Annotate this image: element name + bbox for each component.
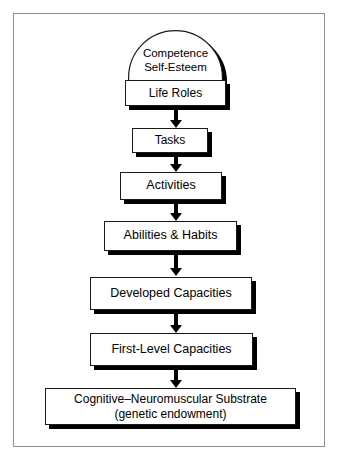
node-abilities-habits-label: Abilities & Habits [120, 228, 222, 243]
node-developed-capacities[interactable]: Developed Capacities [90, 277, 252, 310]
node-activities-label: Activities [142, 178, 199, 193]
node-tasks[interactable]: Tasks [132, 128, 208, 153]
node-first-level-capacities-label: First-Level Capacities [107, 342, 235, 357]
node-life-roles-label: Life Roles [145, 86, 206, 101]
arrow-stem [174, 367, 178, 381]
arrow-stem [174, 252, 178, 269]
arrow-activities-to-abilities [169, 201, 183, 221]
arrow-tasks-to-activities [169, 154, 183, 172]
arrow-stem [174, 107, 178, 121]
arrow-stem [174, 311, 178, 326]
arrow-head [170, 164, 182, 172]
node-abilities-habits[interactable]: Abilities & Habits [104, 221, 237, 251]
node-life-roles[interactable]: Life Roles [125, 80, 226, 106]
diagram-canvas: Competence Self-Esteem Life Roles Tasks … [0, 0, 339, 459]
arrow-first-level-to-substrate [169, 367, 183, 388]
node-cognitive-neuromuscular-substrate-label: Cognitive–Neuromuscular Substrate (genet… [70, 392, 271, 421]
arrow-head [170, 213, 182, 221]
arrow-abilities-to-developed [169, 252, 183, 276]
arrow-head [170, 325, 182, 333]
arrow-life-roles-to-tasks [169, 107, 183, 128]
node-developed-capacities-label: Developed Capacities [106, 286, 236, 301]
arrow-head [170, 120, 182, 128]
arrow-developed-to-first-level [169, 311, 183, 333]
node-cognitive-neuromuscular-substrate[interactable]: Cognitive–Neuromuscular Substrate (genet… [45, 388, 296, 425]
node-activities[interactable]: Activities [120, 172, 222, 200]
node-tasks-label: Tasks [151, 133, 190, 148]
competence-self-esteem-dome: Competence Self-Esteem [128, 30, 223, 80]
arrow-head [170, 268, 182, 276]
dome-label: Competence Self-Esteem [128, 46, 223, 75]
node-first-level-capacities[interactable]: First-Level Capacities [90, 333, 253, 366]
arrow-head [170, 380, 182, 388]
